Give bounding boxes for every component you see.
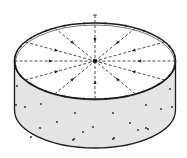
side-dot xyxy=(40,103,42,105)
side-dot xyxy=(145,127,147,129)
cylinder-diagram xyxy=(0,0,187,158)
side-dot xyxy=(147,128,149,130)
side-dot xyxy=(56,121,58,123)
side-dot xyxy=(92,126,94,128)
side-dot xyxy=(73,138,75,140)
side-dot xyxy=(15,104,17,106)
side-dot xyxy=(24,106,26,108)
side-dot xyxy=(112,112,114,114)
side-dot xyxy=(112,138,114,140)
side-dot xyxy=(39,127,41,129)
side-dot xyxy=(169,88,171,90)
side-dot xyxy=(30,136,32,138)
side-dot xyxy=(82,131,84,133)
side-dot xyxy=(16,85,18,87)
center-point xyxy=(93,59,97,63)
side-dot xyxy=(160,108,162,110)
side-dot xyxy=(145,104,147,106)
side-dot xyxy=(137,129,139,131)
side-dot xyxy=(74,112,76,114)
side-dot xyxy=(171,106,173,108)
side-dot xyxy=(129,122,131,124)
